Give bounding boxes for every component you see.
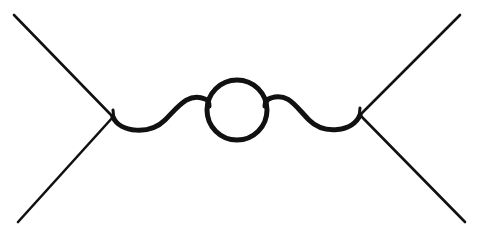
right-vertex-tick	[359, 108, 360, 118]
left-vertex-tick	[113, 110, 114, 120]
diagram-background	[0, 0, 479, 238]
feynman-diagram-figure	[0, 0, 479, 238]
feynman-diagram-canvas	[0, 0, 479, 238]
